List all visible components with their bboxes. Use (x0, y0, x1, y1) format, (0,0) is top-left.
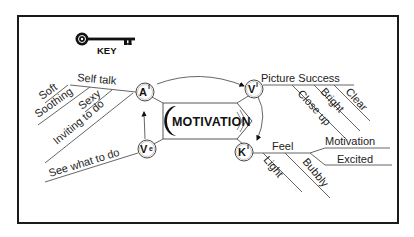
branch-light: Light (261, 154, 286, 180)
center-node: MOTIVATION (163, 103, 252, 139)
branch-excited: Excited (337, 153, 373, 165)
node-ve-sup: e (149, 145, 153, 152)
node-vi-letter: V (248, 83, 256, 95)
node-ai: A i (136, 83, 154, 101)
mind-map: KEY MOTIVATION A i V e V i K i (0, 0, 414, 237)
arrow-ve-to-ai (144, 112, 145, 139)
branch-see-what-to-do: See what to do (47, 146, 121, 179)
node-ki-sup: i (247, 143, 249, 150)
node-ki: K i (235, 143, 253, 161)
node-vi-sup: i (256, 81, 258, 88)
key-icon (76, 33, 136, 46)
branch-clear: Clear (344, 85, 371, 113)
node-ve: V e (138, 140, 156, 158)
branch-motivation: Motivation (325, 135, 375, 147)
node-ve-letter: V (140, 143, 148, 155)
branch-feel: Feel (272, 140, 293, 152)
arrow-ai-to-vi (157, 76, 244, 86)
arrow-vi-to-ki (257, 97, 263, 140)
branch-self-talk: Self talk (77, 71, 118, 86)
center-label: MOTIVATION (172, 115, 251, 129)
node-ki-letter: K (238, 146, 246, 158)
branch-picture-success: Picture Success (261, 72, 340, 84)
key-label: KEY (97, 45, 117, 56)
node-ai-sup: i (148, 83, 150, 90)
node-ai-letter: A (139, 86, 147, 98)
